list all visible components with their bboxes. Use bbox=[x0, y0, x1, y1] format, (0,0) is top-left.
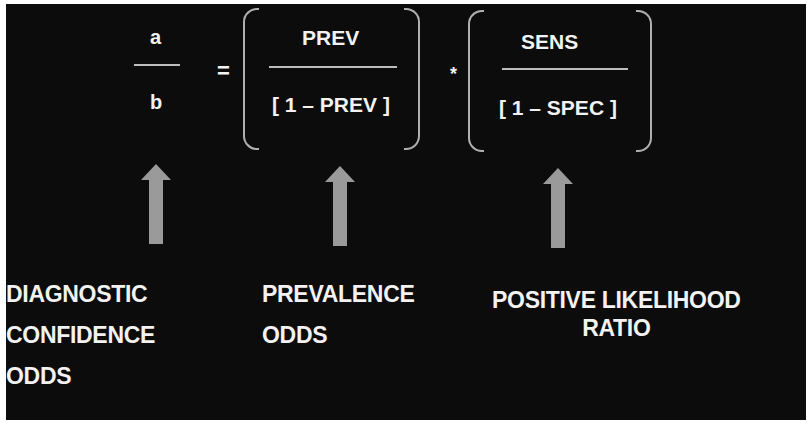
multiply-sign: * bbox=[450, 64, 457, 85]
label-line: DIAGNOSTIC bbox=[6, 274, 155, 315]
lhs-numerator: a bbox=[150, 26, 161, 49]
term1-numerator: PREV bbox=[302, 26, 359, 50]
label-line: RATIO bbox=[492, 314, 741, 342]
prevalence-odds-label: PREVALENCE ODDS bbox=[262, 274, 415, 356]
lhs-denominator: b bbox=[150, 91, 162, 114]
term1-fraction-line bbox=[269, 66, 397, 68]
label-line: ODDS bbox=[6, 356, 155, 397]
term1-right-bracket bbox=[404, 8, 420, 150]
term2-denominator: [ 1 – SPEC ] bbox=[499, 96, 617, 120]
term2-numerator: SENS bbox=[521, 30, 578, 54]
label-line: ODDS bbox=[262, 315, 415, 356]
diagram-panel: a b = PREV [ 1 – PREV ] * SENS [ 1 – SPE… bbox=[6, 4, 806, 420]
up-arrow-icon bbox=[141, 164, 171, 244]
term2-left-bracket bbox=[468, 10, 484, 152]
term2-right-bracket bbox=[636, 10, 652, 152]
label-line: CONFIDENCE bbox=[6, 315, 155, 356]
up-arrow-icon bbox=[325, 166, 355, 246]
label-line: POSITIVE LIKELIHOOD bbox=[492, 286, 741, 314]
label-line: PREVALENCE bbox=[262, 274, 415, 315]
positive-likelihood-ratio-label: POSITIVE LIKELIHOOD RATIO bbox=[492, 286, 741, 342]
term1-left-bracket bbox=[243, 8, 259, 150]
equals-sign: = bbox=[217, 58, 230, 84]
up-arrow-icon bbox=[543, 168, 573, 248]
diagnostic-confidence-odds-label: DIAGNOSTIC CONFIDENCE ODDS bbox=[6, 274, 155, 397]
lhs-fraction-line bbox=[134, 64, 180, 66]
term2-fraction-line bbox=[502, 68, 628, 70]
term1-denominator: [ 1 – PREV ] bbox=[272, 93, 390, 117]
